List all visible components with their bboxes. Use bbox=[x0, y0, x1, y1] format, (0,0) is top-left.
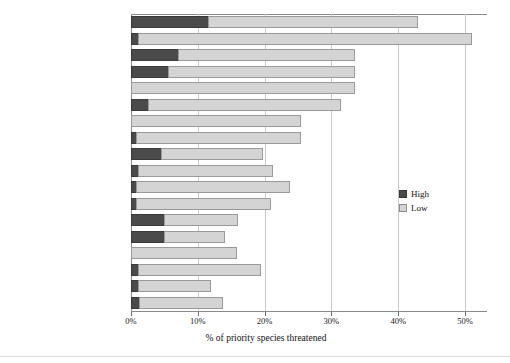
bar-segment-low bbox=[164, 231, 224, 243]
x-tick-label: 40% bbox=[390, 316, 406, 326]
bar-segment-low bbox=[138, 280, 211, 292]
bar-segment-low bbox=[131, 247, 237, 259]
gridline-50% bbox=[465, 14, 466, 311]
stacked-bar bbox=[131, 33, 472, 45]
bar-segment-low bbox=[138, 33, 472, 45]
high-swatch-icon bbox=[399, 190, 407, 198]
stacked-bar bbox=[131, 247, 237, 259]
stacked-bar bbox=[131, 214, 238, 226]
bar-segment-low bbox=[138, 264, 262, 276]
stacked-bar bbox=[131, 181, 290, 193]
x-tick-label: 50% bbox=[457, 316, 473, 326]
x-axis-title-text: % of priority species threatened bbox=[206, 333, 327, 343]
stacked-bar-chart: 0%10%20%30%40%50% 1. Land abandonment2. … bbox=[0, 0, 510, 363]
bar-segment-high bbox=[131, 297, 139, 309]
bar-segment-low bbox=[139, 297, 223, 309]
legend-item-high: High bbox=[399, 188, 429, 200]
x-tick-label: 30% bbox=[324, 316, 340, 326]
chart-row: 4. Human disturbance bbox=[131, 64, 465, 81]
stacked-bar bbox=[131, 264, 261, 276]
bar-segment-low bbox=[136, 198, 271, 210]
bar-segment-high bbox=[131, 231, 164, 243]
stacked-bar bbox=[131, 165, 273, 177]
chart-legend: High Low bbox=[399, 188, 429, 216]
chart-row: 2. Frequent, large fires bbox=[131, 31, 465, 48]
x-tick-label: 0% bbox=[125, 316, 136, 326]
stacked-bar bbox=[131, 148, 263, 160]
legend-label-low: Low bbox=[411, 203, 428, 213]
low-swatch-icon bbox=[399, 204, 407, 212]
bar-segment-low bbox=[138, 165, 273, 177]
bar-segment-high bbox=[131, 99, 148, 111]
bar-segment-high bbox=[131, 16, 208, 28]
bar-segment-low bbox=[148, 99, 342, 111]
x-tick-label: 20% bbox=[257, 316, 273, 326]
bar-segment-high bbox=[131, 264, 138, 276]
bar-segment-low bbox=[208, 16, 418, 28]
chart-row: 15. Arable agriculture bbox=[131, 245, 465, 262]
x-tick-label: 10% bbox=[190, 316, 206, 326]
bar-segment-low bbox=[131, 115, 301, 127]
bar-segment-high bbox=[131, 33, 138, 45]
stacked-bar bbox=[131, 82, 355, 94]
bar-segment-low bbox=[164, 214, 237, 226]
legend-label-high: High bbox=[411, 189, 429, 199]
chart-row: 16. Shrub removal bbox=[131, 262, 465, 279]
chart-row: 17. Pesticides bbox=[131, 278, 465, 295]
stacked-bar bbox=[131, 231, 225, 243]
bar-segment-high bbox=[131, 148, 161, 160]
chart-row: 10. Perennial crops bbox=[131, 163, 465, 180]
legend-item-low: Low bbox=[399, 202, 429, 214]
chart-row: 5. Lack of fire bbox=[131, 80, 465, 97]
bar-segment-low bbox=[168, 66, 355, 78]
bar-segment-low bbox=[136, 181, 290, 193]
stacked-bar bbox=[131, 16, 418, 28]
bar-segment-high bbox=[131, 49, 178, 61]
bar-segment-high bbox=[131, 66, 168, 78]
stacked-bar bbox=[131, 132, 301, 144]
bar-segment-low bbox=[161, 148, 263, 160]
stacked-bar bbox=[131, 280, 211, 292]
stacked-bar bbox=[131, 115, 301, 127]
chart-row: 9. Roads, railways, etc bbox=[131, 146, 465, 163]
chart-row: 8. Urbanization bbox=[131, 130, 465, 147]
bar-segment-high bbox=[131, 214, 164, 226]
stacked-bar bbox=[131, 297, 223, 309]
chart-row: 6. Wood-cutting bbox=[131, 97, 465, 114]
axis-baseline bbox=[131, 311, 487, 312]
chart-row: 1. Land abandonment bbox=[131, 14, 465, 31]
stacked-bar bbox=[131, 99, 341, 111]
footer-divider bbox=[0, 356, 510, 357]
stacked-bar bbox=[131, 49, 355, 61]
chart-row: 18. Mining and quarrying bbox=[131, 295, 465, 312]
chart-row: 7. Reservoir construction bbox=[131, 113, 465, 130]
chart-row: 3. Afforestation bbox=[131, 47, 465, 64]
bar-segment-high bbox=[131, 165, 138, 177]
bar-segment-high bbox=[131, 280, 138, 292]
bar-segment-low bbox=[178, 49, 355, 61]
chart-row: 14. Habitat fragmentation bbox=[131, 229, 465, 246]
plot-area: 1. Land abandonment2. Frequent, large fi… bbox=[131, 14, 465, 311]
bar-segment-low bbox=[136, 132, 301, 144]
stacked-bar bbox=[131, 198, 271, 210]
bar-segment-low bbox=[131, 82, 355, 94]
stacked-bar bbox=[131, 66, 355, 78]
x-axis-title: % of priority species threatened bbox=[0, 333, 510, 343]
